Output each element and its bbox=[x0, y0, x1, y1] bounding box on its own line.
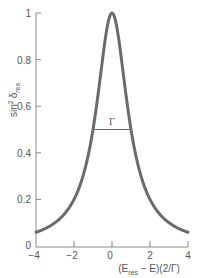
x-tick-label: −2 bbox=[66, 250, 78, 261]
svg-text:sin2δres: sin2δres bbox=[7, 83, 21, 118]
y-ticks bbox=[36, 13, 41, 199]
resonance-chart: 1 0.8 0.6 0.4 0.2 0 −4 −2 0 2 4 Γ sin2δr… bbox=[0, 0, 199, 278]
x-tick-label: −4 bbox=[28, 250, 40, 261]
x-tick-label: 0 bbox=[107, 250, 113, 261]
gamma-label: Γ bbox=[109, 116, 115, 127]
y-tick-label: 0.8 bbox=[17, 55, 31, 66]
y-tick-label: 0.4 bbox=[17, 148, 31, 159]
x-tick-label: 4 bbox=[185, 250, 191, 261]
y-tick-label: 0.6 bbox=[17, 101, 31, 112]
y-tick-label: 0.2 bbox=[17, 194, 31, 205]
y-tick-label: 1 bbox=[25, 8, 31, 19]
x-tick-label: 2 bbox=[147, 250, 153, 261]
x-axis-title: (Eres − E)(2/Γ) bbox=[118, 263, 180, 276]
x-ticks bbox=[74, 241, 188, 247]
y-axis-title: sin2δres bbox=[7, 83, 21, 118]
